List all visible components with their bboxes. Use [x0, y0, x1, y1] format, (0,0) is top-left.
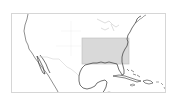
- great-lakes: [97, 19, 119, 31]
- us-mexico-border: [38, 57, 79, 76]
- puerto-rico: [156, 82, 165, 89]
- map-frame: [11, 13, 166, 93]
- basemap: [12, 14, 166, 93]
- jamaica: [130, 84, 135, 86]
- hispaniola: [143, 80, 153, 84]
- central-america-coast: [101, 92, 113, 93]
- bahamas: [127, 69, 140, 77]
- baja-peninsula: [37, 56, 45, 74]
- cuba: [113, 75, 141, 82]
- mexico-gulf-coast: [79, 76, 107, 93]
- state-borders: [56, 21, 81, 56]
- pacific-coastline: [24, 14, 59, 93]
